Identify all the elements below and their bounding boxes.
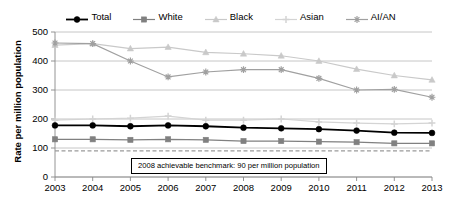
data-point bbox=[202, 117, 209, 124]
data-point bbox=[241, 138, 246, 143]
data-point bbox=[165, 122, 171, 128]
series-line bbox=[55, 44, 432, 80]
data-point bbox=[240, 66, 247, 73]
data-point bbox=[203, 137, 208, 142]
data-point bbox=[279, 138, 284, 143]
series-white bbox=[52, 137, 434, 146]
data-point bbox=[165, 113, 172, 120]
data-point bbox=[391, 121, 398, 128]
series-total bbox=[52, 122, 435, 135]
data-point bbox=[127, 58, 134, 65]
data-point bbox=[127, 115, 134, 122]
series-ai-an bbox=[52, 40, 436, 101]
x-axis-tick-labels: 2003200420052006200720082009201020112012… bbox=[0, 182, 462, 198]
data-point bbox=[429, 141, 434, 146]
data-point bbox=[165, 74, 172, 81]
data-point bbox=[353, 87, 360, 94]
data-point bbox=[89, 116, 96, 123]
data-point bbox=[429, 94, 436, 101]
data-point bbox=[52, 40, 59, 47]
data-point bbox=[52, 122, 58, 128]
data-point bbox=[90, 137, 95, 142]
data-point bbox=[52, 137, 57, 142]
line-chart: TotalWhiteBlackAsianAI/AN Rate per milli… bbox=[0, 0, 462, 212]
data-point bbox=[392, 141, 397, 146]
data-point bbox=[202, 69, 209, 76]
achievable-benchmark-callout: 2008 achievable benchmark: 90 per millio… bbox=[131, 158, 327, 174]
data-point bbox=[354, 128, 360, 134]
data-point bbox=[241, 125, 247, 131]
plot-area bbox=[0, 0, 462, 212]
x-tick-label: 2013 bbox=[410, 182, 454, 193]
data-point bbox=[278, 66, 285, 73]
data-point bbox=[316, 119, 323, 126]
data-point bbox=[90, 122, 96, 128]
data-point bbox=[391, 130, 397, 136]
benchmark-text: 2008 achievable benchmark: 90 per millio… bbox=[138, 161, 320, 170]
data-point bbox=[391, 86, 398, 93]
data-point bbox=[354, 140, 359, 145]
data-point bbox=[316, 139, 321, 144]
data-point bbox=[429, 120, 436, 127]
data-point bbox=[429, 130, 435, 136]
data-point bbox=[128, 137, 133, 142]
data-point bbox=[127, 123, 133, 129]
data-point bbox=[278, 125, 284, 131]
data-point bbox=[316, 126, 322, 132]
data-point bbox=[240, 117, 247, 124]
data-point bbox=[353, 120, 360, 127]
data-point bbox=[316, 75, 323, 82]
data-point bbox=[89, 40, 96, 47]
data-point bbox=[166, 137, 171, 142]
data-point bbox=[203, 123, 209, 129]
data-point bbox=[278, 116, 285, 123]
